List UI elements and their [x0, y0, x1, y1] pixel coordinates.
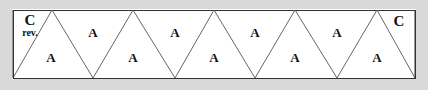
face-label-lower-2: A [209, 51, 218, 64]
face-label-lower-4: A [372, 51, 381, 64]
triangle-strip-figure: C rev. C AAAAAAAAA [0, 0, 428, 90]
face-label-upper-2: A [250, 26, 259, 39]
triangle-strip-svg [0, 0, 428, 90]
face-label-lower-3: A [290, 51, 299, 64]
face-label-upper-0: A [88, 26, 97, 39]
face-label-upper-3: A [332, 26, 341, 39]
corner-label-c-left: C [25, 13, 36, 28]
face-label-lower-1: A [128, 51, 137, 64]
outer-border-rectangle [14, 11, 416, 79]
face-label-lower-0: A [46, 51, 55, 64]
face-label-upper-1: A [170, 26, 179, 39]
corner-label-rev: rev. [22, 28, 38, 38]
corner-label-c-right: C [394, 14, 405, 29]
